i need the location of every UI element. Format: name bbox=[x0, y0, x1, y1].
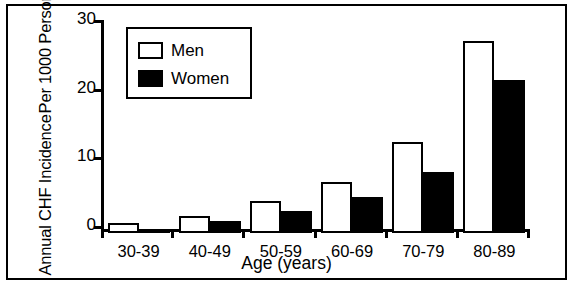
y-tick-label: 20 bbox=[77, 78, 96, 97]
x-tick-mark bbox=[527, 229, 530, 238]
y-tick-label: 0 bbox=[87, 215, 96, 234]
y-tick-10: 10 bbox=[101, 157, 102, 158]
y-axis-spine bbox=[101, 20, 104, 232]
y-tick-label: 10 bbox=[77, 146, 96, 165]
y-tick-30: 30 bbox=[101, 20, 102, 21]
bar-women-50-59 bbox=[281, 211, 312, 233]
figure-frame: Annual CHF Incidence Per 1000 Persons 01… bbox=[6, 4, 567, 280]
legend-swatch-men-icon bbox=[138, 42, 163, 59]
legend-label-men: Men bbox=[171, 41, 204, 60]
bar-women-40-49 bbox=[210, 221, 241, 233]
bar-women-30-39 bbox=[139, 230, 170, 233]
legend-item-men: Men bbox=[138, 36, 250, 64]
bar-women-60-69 bbox=[352, 197, 383, 233]
y-axis-title: Annual CHF Incidence Per 1000 Persons bbox=[19, 25, 71, 235]
x-tick-mark bbox=[314, 229, 317, 238]
y-tick-0: 0 bbox=[101, 226, 102, 227]
x-tick-mark bbox=[385, 229, 388, 238]
y-axis-title-line-1: Annual CHF Incidence bbox=[36, 114, 55, 275]
bar-men-80-89 bbox=[463, 41, 494, 233]
bar-men-50-59 bbox=[250, 201, 281, 233]
bar-men-70-79 bbox=[392, 142, 423, 233]
legend-swatch-women-icon bbox=[138, 70, 163, 87]
bar-men-40-49 bbox=[179, 216, 210, 233]
x-tick-mark bbox=[171, 229, 174, 238]
y-tick-label: 30 bbox=[77, 9, 96, 28]
bar-women-70-79 bbox=[423, 172, 454, 233]
y-axis-title-line-2: Per 1000 Persons bbox=[36, 0, 55, 113]
x-tick-mark-origin bbox=[101, 229, 104, 238]
x-tick-mark bbox=[456, 229, 459, 238]
y-tick-20: 20 bbox=[101, 89, 102, 90]
bar-men-60-69 bbox=[321, 182, 352, 233]
legend-item-women: Women bbox=[138, 64, 250, 92]
chart-legend: Men Women bbox=[126, 27, 252, 99]
x-tick-mark bbox=[242, 229, 245, 238]
bar-men-30-39 bbox=[108, 223, 139, 233]
bar-women-80-89 bbox=[494, 80, 525, 233]
legend-label-women: Women bbox=[171, 69, 229, 88]
x-axis-title: Age (years) bbox=[8, 253, 565, 273]
